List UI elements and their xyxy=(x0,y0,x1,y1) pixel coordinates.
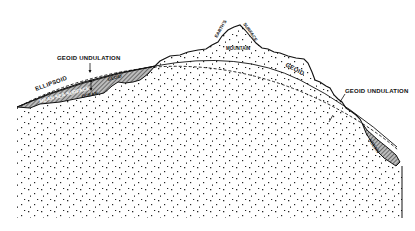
geoid-ellipsoid-diagram: GEOID UNDULATION ELLIPSOID MEAN SEA SURF… xyxy=(0,0,415,231)
earth-landmass xyxy=(17,25,402,218)
label-mountain: MOUNTAIN xyxy=(226,46,250,51)
arrow-head-icon xyxy=(89,70,92,73)
label-geoid-undulation-left: GEOID UNDULATION xyxy=(57,55,120,61)
geoid-undulation-arrow-right xyxy=(340,94,345,102)
label-geoid-undulation-right: GEOID UNDULATION xyxy=(345,88,408,94)
